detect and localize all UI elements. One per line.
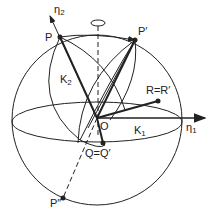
label-eta1: η1 bbox=[186, 122, 197, 135]
point-Q bbox=[101, 141, 106, 146]
point-P bbox=[58, 35, 63, 40]
label-P-double-prime: P″ bbox=[50, 198, 61, 209]
label-Q: Q=Q′ bbox=[85, 148, 111, 159]
label-K1: K1 bbox=[134, 125, 146, 138]
label-R: R=R′ bbox=[146, 85, 170, 96]
label-P-prime: P′ bbox=[138, 26, 147, 37]
label-K2: K2 bbox=[60, 74, 72, 87]
rotation-indicator-icon bbox=[91, 20, 105, 26]
point-P-prime bbox=[133, 38, 138, 43]
sphere-rotation-diagram: η2 η1 P P′ P″ K2 K1 O R=R′ Q=Q′ bbox=[0, 0, 213, 218]
K2-circle bbox=[49, 37, 105, 147]
label-P: P bbox=[45, 32, 52, 43]
diagram-canvas bbox=[0, 0, 213, 218]
label-O: O bbox=[100, 121, 109, 132]
label-eta2: η2 bbox=[54, 4, 65, 17]
point-P-double-prime bbox=[61, 196, 66, 201]
point-R bbox=[156, 99, 161, 104]
